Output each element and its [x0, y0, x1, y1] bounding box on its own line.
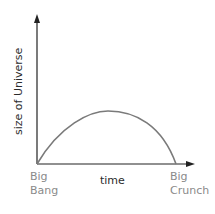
universe-size-diagram: size of Universe time Big Bang Big Crunc… — [0, 0, 215, 214]
universe-size-curve — [37, 111, 176, 164]
x-axis-label: time — [100, 174, 125, 187]
y-axis-arrow-icon — [34, 14, 40, 23]
big-crunch-label-line2: Crunch — [170, 184, 209, 197]
big-bang-label-line1: Big — [30, 170, 48, 183]
x-axis-arrow-icon — [186, 161, 195, 167]
y-axis-label: size of Universe — [12, 47, 25, 135]
big-crunch-label-line1: Big — [170, 170, 188, 183]
big-bang-label-line2: Bang — [30, 184, 58, 197]
